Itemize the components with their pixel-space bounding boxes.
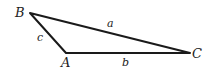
vertex-label-b: B: [14, 5, 25, 20]
side-label-b: b: [122, 56, 129, 69]
triangle-diagram: B A C a b c: [0, 0, 216, 78]
vertex-label-c: C: [192, 46, 202, 61]
side-label-a: a: [107, 17, 114, 30]
vertex-label-a: A: [60, 55, 70, 70]
side-label-c: c: [37, 31, 43, 44]
